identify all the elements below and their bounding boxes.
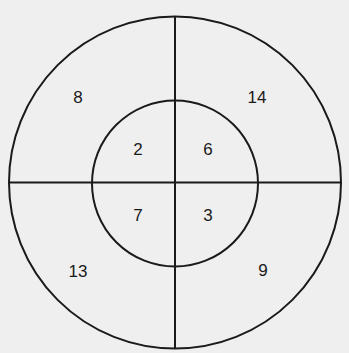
- inner-top-left-label: 2: [133, 140, 142, 159]
- inner-bottom-right-label: 3: [203, 206, 212, 225]
- outer-bottom-left-label: 13: [69, 262, 88, 281]
- outer-top-left-label: 8: [73, 88, 82, 107]
- outer-top-right-label: 14: [248, 88, 267, 107]
- target-diagram: 8 14 13 9 2 6 7 3: [0, 0, 349, 353]
- inner-bottom-left-label: 7: [133, 206, 142, 225]
- outer-bottom-right-label: 9: [258, 261, 267, 280]
- inner-top-right-label: 6: [203, 140, 212, 159]
